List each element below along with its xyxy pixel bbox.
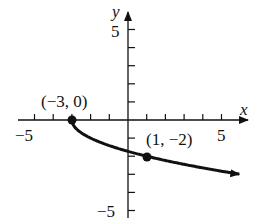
point-label-neg3-0: (−3, 0) <box>41 93 87 110</box>
x-axis-label: x <box>240 101 248 118</box>
y-axis-label: y <box>112 3 120 20</box>
point-1-neg2 <box>143 153 152 162</box>
point-label-1-neg2: (1, −2) <box>146 131 192 148</box>
y-tick-label-neg5: −5 <box>97 203 115 220</box>
x-tick-label-neg5: −5 <box>15 127 33 144</box>
x-tick-label-5: 5 <box>217 127 226 144</box>
graph-canvas <box>0 0 253 220</box>
y-tick-label-5: 5 <box>111 23 120 40</box>
point-neg3-0 <box>68 116 77 125</box>
